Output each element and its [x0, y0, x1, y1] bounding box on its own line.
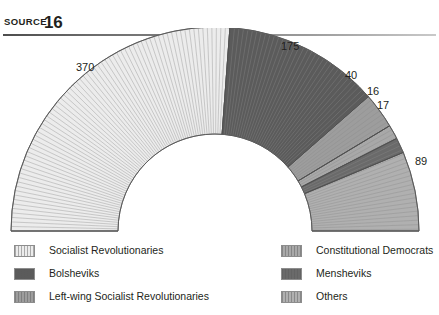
legend-swatch-left-wing-socialist-revolutionaries	[14, 291, 35, 303]
value-label-mensheviks: 17	[377, 100, 389, 111]
legend-item-bolsheviks[interactable]: Bolsheviks	[14, 263, 209, 284]
value-label-bolsheviks: 175	[281, 41, 299, 52]
value-label-socialist-revolutionaries: 370	[76, 62, 94, 73]
legend-label-left-wing-socialist-revolutionaries: Left-wing Socialist Revolutionaries	[49, 291, 209, 302]
legend-item-socialist-revolutionaries[interactable]: Socialist Revolutionaries	[14, 240, 209, 261]
source-figure: SOURCE 16 370 175 40 16 17 89 Socialist …	[0, 0, 439, 315]
legend-swatch-constitutional-democrats	[281, 245, 302, 257]
source-label: SOURCE	[4, 16, 47, 27]
hemicycle-chart	[0, 28, 439, 238]
legend-label-mensheviks: Mensheviks	[316, 268, 371, 279]
value-label-others: 89	[415, 156, 427, 167]
value-label-left-wing-sr: 40	[345, 70, 357, 81]
legend-column-left: Socialist Revolutionaries Bolsheviks Lef…	[14, 240, 209, 309]
hemicycle-svg	[0, 28, 439, 238]
legend-item-left-wing-socialist-revolutionaries[interactable]: Left-wing Socialist Revolutionaries	[14, 286, 209, 307]
legend-label-bolsheviks: Bolsheviks	[49, 268, 99, 279]
legend-swatch-socialist-revolutionaries	[14, 245, 35, 257]
legend-swatch-mensheviks	[281, 268, 302, 280]
legend-column-right: Constitutional Democrats Mensheviks Othe…	[281, 240, 433, 309]
legend-swatch-bolsheviks	[14, 268, 35, 280]
legend-label-constitutional-democrats: Constitutional Democrats	[316, 245, 433, 256]
chart-legend: Socialist Revolutionaries Bolsheviks Lef…	[0, 240, 439, 306]
legend-item-constitutional-democrats[interactable]: Constitutional Democrats	[281, 240, 433, 261]
legend-item-others[interactable]: Others	[281, 286, 433, 307]
legend-label-others: Others	[316, 291, 348, 302]
legend-swatch-others	[281, 291, 302, 303]
value-label-constitutional-democrats: 16	[367, 86, 379, 97]
legend-label-socialist-revolutionaries: Socialist Revolutionaries	[49, 245, 163, 256]
legend-item-mensheviks[interactable]: Mensheviks	[281, 263, 433, 284]
